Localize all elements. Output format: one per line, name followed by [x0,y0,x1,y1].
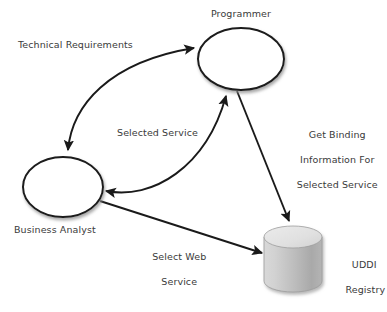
programmer-label: Programmer [185,8,297,21]
uddi-registry-label: UDDI Registry [333,246,383,309]
node-programmer[interactable] [198,28,284,90]
select-web-service-label-line1: Select Web [152,251,206,262]
get-binding-label-line2: Information For [300,154,374,165]
selected-service-label: Selected Service [117,127,227,140]
get-binding-information-label: Get Binding Information For Selected Ser… [281,116,381,204]
select-web-service-label-line2: Service [161,276,197,287]
uddi-registry-label-line2: Registry [345,284,385,295]
get-binding-label-line3: Selected Service [297,179,378,190]
node-business-analyst[interactable] [23,157,103,217]
edge-selected-service [106,96,226,192]
programmer-ellipse[interactable] [198,28,284,90]
business-analyst-label: Business Analyst [14,224,134,237]
business-analyst-ellipse[interactable] [23,157,103,217]
uddi-cylinder-top[interactable] [264,226,322,248]
get-binding-label-line1: Get Binding [309,129,366,140]
diagram-canvas: Programmer Business Analyst UDDI Registr… [0,0,387,312]
selected-service-arrow [106,96,226,192]
technical-requirements-label: Technical Requirements [18,39,168,52]
select-web-service-label: Select Web Service [131,238,215,301]
uddi-registry-label-line1: UDDI [352,259,377,270]
node-uddi-registry[interactable] [264,226,322,292]
